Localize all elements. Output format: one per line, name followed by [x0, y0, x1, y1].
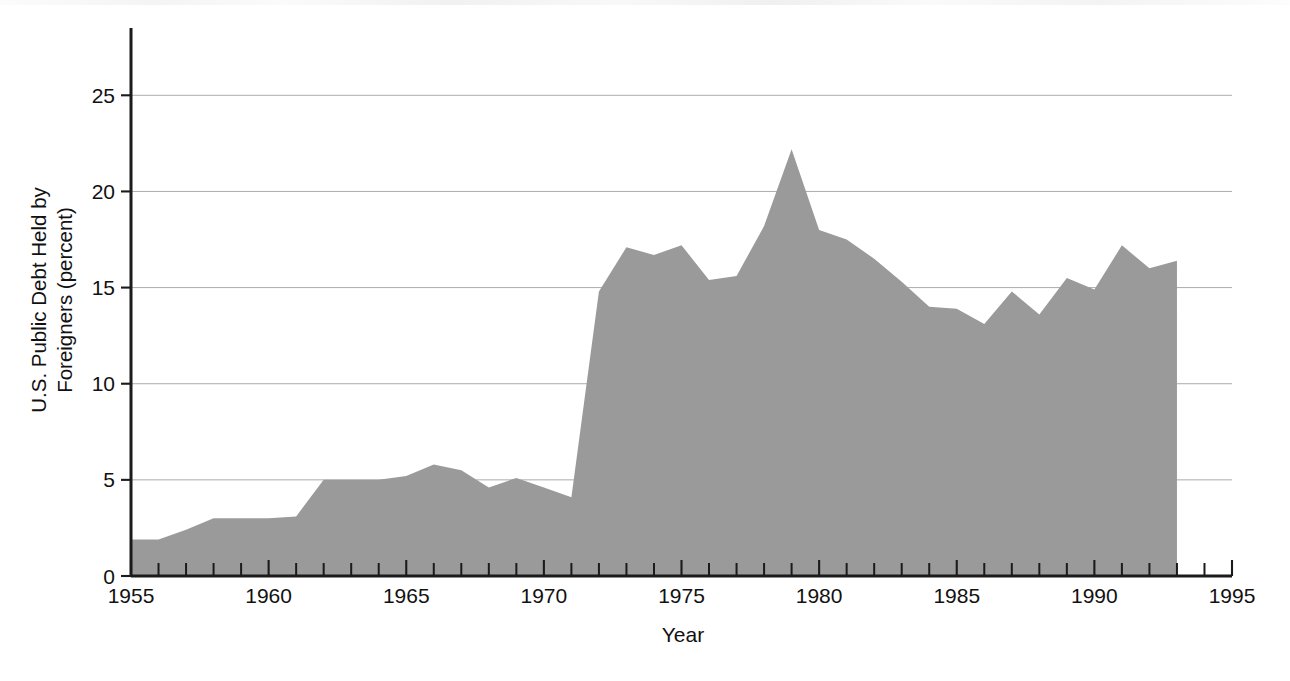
x-tick-label-1990: 1990 — [1071, 584, 1118, 607]
y-axis-title-line-2: Foreigners (percent) — [53, 207, 76, 393]
y-tick-label-group: 0510152025 — [92, 84, 115, 588]
area-series-group — [131, 149, 1177, 576]
x-tick-label-1975: 1975 — [658, 584, 705, 607]
x-tick-label-group: 195519601965197019751980198519901995 — [108, 584, 1256, 607]
y-tick-label-10: 10 — [92, 372, 115, 395]
y-tick-label-15: 15 — [92, 276, 115, 299]
x-tick-label-1970: 1970 — [521, 584, 568, 607]
x-tick-label-1985: 1985 — [933, 584, 980, 607]
chart-figure: 0510152025 19551960196519701975198019851… — [0, 0, 1290, 681]
y-tick-label-20: 20 — [92, 180, 115, 203]
y-tick-label-5: 5 — [103, 468, 115, 491]
x-tick-label-1995: 1995 — [1209, 584, 1256, 607]
y-tick-label-25: 25 — [92, 84, 115, 107]
y-axis-title-group: U.S. Public Debt Held by Foreigners (per… — [27, 186, 76, 412]
x-tick-label-1955: 1955 — [108, 584, 155, 607]
area-chart: 0510152025 19551960196519701975198019851… — [0, 0, 1290, 681]
x-tick-label-1960: 1960 — [245, 584, 292, 607]
x-tick-label-1965: 1965 — [383, 584, 430, 607]
scan-artifact-band — [0, 0, 1290, 5]
y-axis-title-line-1: U.S. Public Debt Held by — [27, 186, 50, 412]
x-tick-label-1980: 1980 — [796, 584, 843, 607]
x-axis-title: Year — [662, 623, 704, 646]
area-series-path — [131, 149, 1177, 576]
